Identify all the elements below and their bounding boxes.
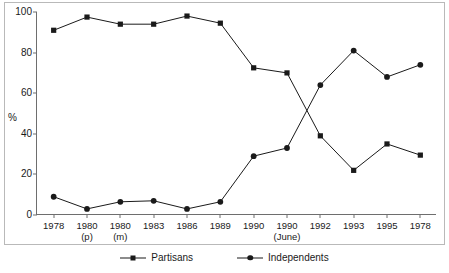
y-tick-label: 100 [15,7,32,17]
legend-label: Partisans [151,252,193,263]
circle-marker-icon [284,145,290,151]
x-tick-label-year: 1990 [243,220,264,231]
series-line [54,51,421,209]
square-marker-icon [284,70,289,75]
y-tick-label: 40 [21,129,32,139]
x-tick-label-year: 1978 [43,220,64,231]
square-marker-icon [131,255,136,260]
series-plot [37,12,437,215]
series-partisans [51,13,423,172]
x-tick-label: 1990(June) [274,220,301,242]
y-tick-label: 20 [21,169,32,179]
square-marker-icon [118,22,123,27]
series-line [54,16,421,170]
x-tick-label: 1992 [310,220,331,231]
x-tick-label-year: 1990 [276,220,297,231]
circle-marker-icon [251,153,257,159]
chart-figure: % 020406080100 19781980(p)1980(m)1983198… [0,0,449,273]
circle-marker-icon [417,62,423,68]
circle-marker-icon [217,199,223,205]
y-tick-label: 60 [21,88,32,98]
x-tick-label-year: 1992 [310,220,331,231]
circle-marker-icon [351,48,357,54]
circle-marker-icon [51,194,57,200]
square-marker-icon [418,153,423,158]
series-independents [51,48,423,212]
x-tick-label-year: 1983 [143,220,164,231]
circle-marker-icon [384,74,390,80]
legend-entry-partisans[interactable]: Partisans [120,252,193,263]
x-tick-label-year: 1980 [110,220,131,231]
x-tick-label: 1995 [376,220,397,231]
circle-marker-icon [317,82,323,88]
square-marker-icon [184,13,189,18]
x-tick-label: 1980(p) [76,220,97,242]
x-tick-label-qualifier: (p) [76,231,97,242]
x-tick-label: 1990 [243,220,264,231]
square-marker-icon [151,22,156,27]
x-tick-label-qualifier: (June) [274,231,301,242]
x-tick-label: 1993 [343,220,364,231]
circle-marker-icon [247,255,253,261]
circle-marker-icon [184,206,190,212]
chart-legend: PartisansIndependents [0,252,449,263]
legend-entry-independents[interactable]: Independents [237,252,329,263]
x-tick-label: 1983 [143,220,164,231]
y-axis-title: % [8,113,17,123]
circle-marker-icon [237,253,263,263]
square-marker-icon [351,168,356,173]
x-tick-label: 1986 [176,220,197,231]
x-tick-label-year: 1978 [410,220,431,231]
x-tick-label-year: 1993 [343,220,364,231]
x-tick-label-year: 1986 [176,220,197,231]
square-marker-icon [51,28,56,33]
circle-marker-icon [84,206,90,212]
y-tick-label: 80 [21,48,32,58]
plot-area: 020406080100 19781980(p)1980(m)198319861… [36,12,436,215]
circle-marker-icon [151,198,157,204]
square-marker-icon [318,133,323,138]
square-marker-icon [120,253,146,263]
circle-marker-icon [117,199,123,205]
x-tick-label: 1978 [43,220,64,231]
x-tick-label-qualifier: (m) [110,231,131,242]
square-marker-icon [218,21,223,26]
square-marker-icon [84,14,89,19]
x-tick-label: 1980(m) [110,220,131,242]
x-tick-label-year: 1980 [76,220,97,231]
square-marker-icon [251,65,256,70]
legend-label: Independents [268,252,329,263]
x-tick-label: 1978 [410,220,431,231]
x-tick-label: 1989 [210,220,231,231]
y-tick-label: 0 [26,210,32,220]
square-marker-icon [384,141,389,146]
x-tick-label-year: 1995 [376,220,397,231]
x-tick-label-year: 1989 [210,220,231,231]
